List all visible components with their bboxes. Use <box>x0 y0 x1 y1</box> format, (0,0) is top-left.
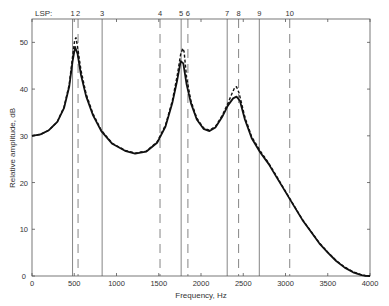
lsp-axis-label: LSP: <box>35 9 52 18</box>
x-tick-label: 500 <box>68 279 81 288</box>
data-series <box>32 38 370 276</box>
x-tick-label: 1000 <box>108 279 125 288</box>
y-tick-label: 50 <box>20 38 28 47</box>
x-axis-label: Frequency, Hz <box>175 291 226 300</box>
lsp-label: 6 <box>186 9 190 18</box>
x-tick-label: 2000 <box>193 279 210 288</box>
lsp-label: 1 <box>70 9 74 18</box>
y-tick-label: 20 <box>20 179 28 188</box>
plot-frame <box>32 19 370 276</box>
lsp-label: 3 <box>100 9 104 18</box>
lsp-label: 7 <box>225 9 229 18</box>
lsp-label: 4 <box>158 9 162 18</box>
y-tick-label: 10 <box>20 225 28 234</box>
x-tick-label: 2500 <box>235 279 252 288</box>
lsp-label: 9 <box>257 9 261 18</box>
lsp-label: 5 <box>179 9 183 18</box>
lsp-label: 10 <box>286 9 294 18</box>
lsp-spectrum-chart: 12345678910 0500100015002000250030003500… <box>0 0 389 306</box>
lsp-label: 8 <box>237 9 241 18</box>
x-tick-label: 0 <box>30 279 34 288</box>
x-tick-label: 4000 <box>362 279 379 288</box>
y-tick-label: 30 <box>20 132 28 141</box>
lsp-label: 2 <box>76 9 80 18</box>
x-tick-label: 1500 <box>150 279 167 288</box>
y-axis-label: Relative amplitude, dB <box>8 108 17 188</box>
series-dashed <box>32 38 370 276</box>
x-tick-label: 3500 <box>319 279 336 288</box>
y-tick-label: 40 <box>20 85 28 94</box>
x-tick-label: 3000 <box>277 279 294 288</box>
y-tick-label: 0 <box>22 272 26 281</box>
